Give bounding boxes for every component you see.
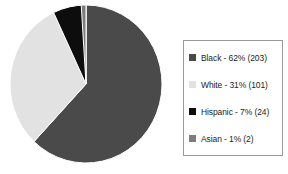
pie-chart-plot-area bbox=[9, 4, 163, 164]
pie-chart-figure: Black - 62% (203) White - 31% (101) Hisp… bbox=[0, 0, 288, 174]
legend-item-asian[interactable]: Asian - 1% (2) bbox=[184, 133, 282, 145]
legend-swatch-icon-black bbox=[189, 54, 196, 61]
legend-label-white: White - 31% (101) bbox=[201, 80, 268, 90]
chart-legend: Black - 62% (203) White - 31% (101) Hisp… bbox=[183, 40, 283, 156]
legend-label-asian: Asian - 1% (2) bbox=[201, 134, 253, 144]
legend-swatch-icon-asian bbox=[189, 135, 196, 142]
legend-swatch-icon-hispanic bbox=[189, 108, 196, 115]
legend-item-black[interactable]: Black - 62% (203) bbox=[184, 52, 282, 64]
pie-slice-group bbox=[10, 5, 162, 163]
legend-item-hispanic[interactable]: Hispanic - 7% (24) bbox=[184, 106, 282, 118]
legend-label-black: Black - 62% (203) bbox=[201, 53, 267, 63]
pie-chart-svg bbox=[9, 4, 163, 164]
legend-swatch-icon-white bbox=[189, 81, 196, 88]
legend-label-hispanic: Hispanic - 7% (24) bbox=[201, 107, 269, 117]
legend-item-white[interactable]: White - 31% (101) bbox=[184, 79, 282, 91]
